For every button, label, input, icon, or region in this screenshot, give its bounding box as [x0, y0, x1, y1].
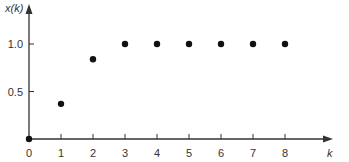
data-point — [154, 41, 160, 47]
x-tick-label: 7 — [250, 147, 256, 159]
step-response-chart: 012345678 0.51.0 x(k) k — [0, 0, 349, 162]
x-tick-label: 0 — [26, 147, 32, 159]
data-point — [90, 56, 96, 62]
axes — [29, 10, 327, 139]
data-point — [218, 41, 224, 47]
data-point — [186, 41, 192, 47]
data-point — [58, 101, 64, 107]
x-tick-label: 4 — [154, 147, 160, 159]
x-ticks: 012345678 — [26, 134, 288, 159]
x-tick-label: 5 — [186, 147, 192, 159]
data-point — [122, 41, 128, 47]
x-tick-label: 2 — [90, 147, 96, 159]
y-tick-label: 1.0 — [8, 38, 23, 50]
x-tick-label: 6 — [218, 147, 224, 159]
data-point — [26, 136, 32, 142]
y-axis-label: x(k) — [4, 2, 24, 14]
y-tick-label: 0.5 — [8, 86, 23, 98]
data-point — [282, 41, 288, 47]
x-axis-label: k — [327, 147, 333, 159]
y-axis-arrow-icon — [26, 4, 33, 14]
x-tick-label: 3 — [122, 147, 128, 159]
x-tick-label: 8 — [282, 147, 288, 159]
y-ticks: 0.51.0 — [8, 38, 34, 98]
x-tick-label: 1 — [58, 147, 64, 159]
data-point — [250, 41, 256, 47]
data-points — [26, 41, 288, 142]
x-axis-arrow-icon — [323, 136, 333, 143]
